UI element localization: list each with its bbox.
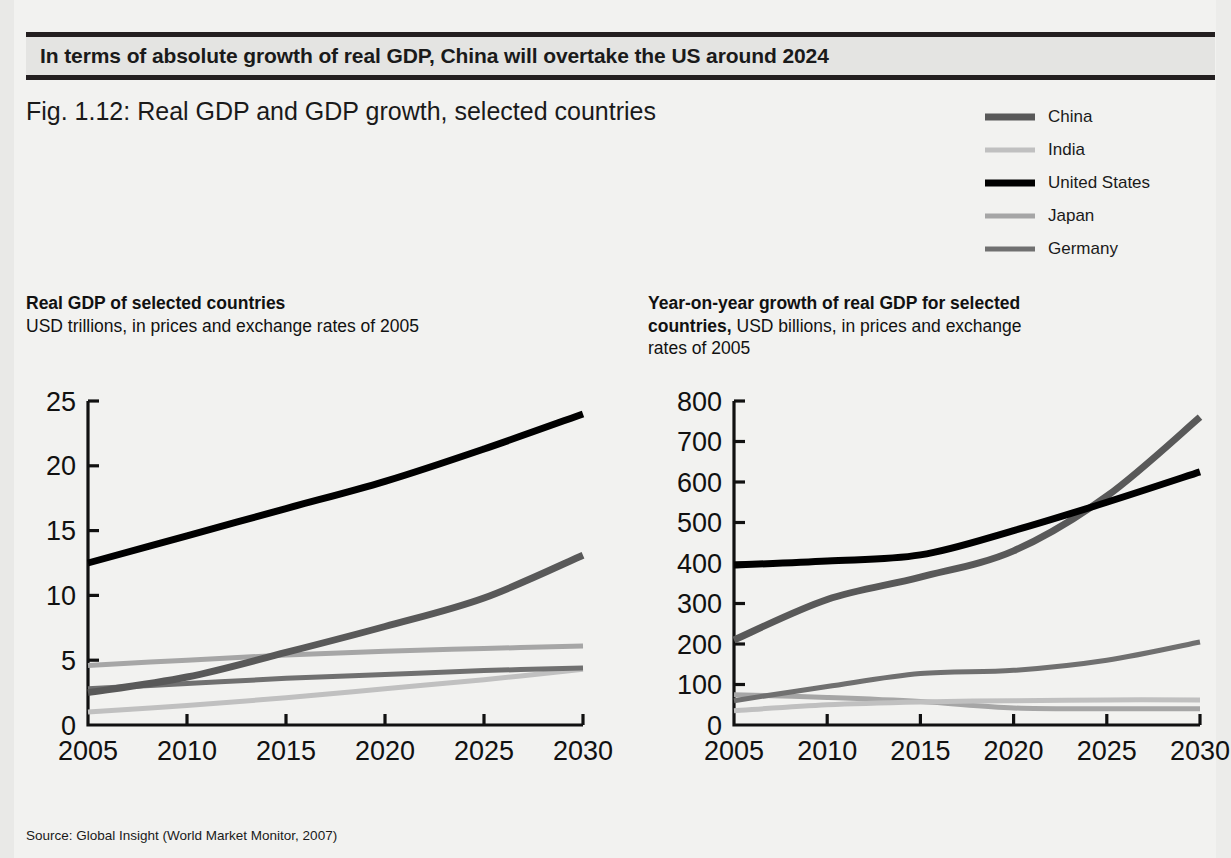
panel-left-heading-rest: USD trillions, in prices and exchange ra…: [26, 316, 419, 336]
x-tick-label: 2010: [157, 736, 217, 766]
x-tick-label: 2020: [355, 736, 415, 766]
x-tick-label: 2005: [58, 736, 118, 766]
right-margin-strip: [1216, 0, 1231, 858]
chart-legend: China India United States Japan Germany: [985, 100, 1215, 265]
legend-label-japan: Japan: [1048, 206, 1094, 226]
series-line-china: [734, 417, 1200, 640]
legend-item-japan: Japan: [985, 199, 1215, 232]
x-tick-label: 2010: [797, 736, 857, 766]
figure-page: In terms of absolute growth of real GDP,…: [0, 0, 1231, 858]
y-tick-label: 300: [677, 589, 722, 619]
x-tick-label: 2015: [256, 736, 316, 766]
panel-real-gdp: Real GDP of selected countries USD trill…: [26, 292, 601, 337]
series-line-united-states: [88, 414, 583, 563]
panel-left-heading: Real GDP of selected countries USD trill…: [26, 292, 426, 337]
legend-label-india: India: [1048, 140, 1085, 160]
series-line-united-states: [734, 472, 1200, 565]
legend-swatch-india: [985, 144, 1035, 156]
panel-left-heading-bold: Real GDP of selected countries: [26, 293, 285, 313]
legend-label-united-states: United States: [1048, 173, 1150, 193]
y-tick-label: 10: [46, 581, 76, 611]
legend-item-india: India: [985, 133, 1215, 166]
y-tick-label: 100: [677, 670, 722, 700]
left-margin-strip: [0, 0, 14, 858]
x-tick-label: 2030: [1170, 736, 1230, 766]
x-tick-label: 2020: [984, 736, 1044, 766]
legend-swatch-united-states: [985, 177, 1035, 189]
y-tick-label: 15: [46, 516, 76, 546]
x-tick-label: 2015: [890, 736, 950, 766]
panel-gdp-growth: Year-on-year growth of real GDP for sele…: [648, 292, 1218, 360]
panel-right-heading: Year-on-year growth of real GDP for sele…: [648, 292, 1048, 360]
y-tick-label: 400: [677, 549, 722, 579]
y-tick-label: 600: [677, 468, 722, 498]
y-tick-label: 5: [61, 646, 76, 676]
y-tick-label: 25: [46, 387, 76, 417]
banner-headline: In terms of absolute growth of real GDP,…: [26, 44, 829, 68]
y-tick-label: 20: [46, 451, 76, 481]
legend-label-china: China: [1048, 107, 1092, 127]
series-line-japan: [88, 646, 583, 665]
chart-left-svg: 0510152025200520102015202020252030: [26, 387, 601, 777]
x-tick-label: 2025: [454, 736, 514, 766]
chart-right-svg: 0100200300400500600700800200520102015202…: [648, 387, 1218, 777]
legend-item-germany: Germany: [985, 232, 1215, 265]
x-tick-label: 2030: [553, 736, 613, 766]
legend-item-united-states: United States: [985, 166, 1215, 199]
legend-swatch-germany: [985, 243, 1035, 255]
legend-item-china: China: [985, 100, 1215, 133]
figure-title: Fig. 1.12: Real GDP and GDP growth, sele…: [26, 97, 656, 126]
chart-left: 0510152025200520102015202020252030: [26, 387, 601, 777]
source-note: Source: Global Insight (World Market Mon…: [26, 828, 337, 843]
y-tick-label: 700: [677, 427, 722, 457]
x-tick-label: 2005: [704, 736, 764, 766]
header-banner: In terms of absolute growth of real GDP,…: [26, 32, 1215, 80]
y-tick-label: 800: [677, 387, 722, 417]
legend-swatch-japan: [985, 210, 1035, 222]
y-tick-label: 500: [677, 508, 722, 538]
x-tick-label: 2025: [1077, 736, 1137, 766]
series-line-germany: [734, 642, 1200, 701]
legend-swatch-china: [985, 111, 1035, 123]
y-tick-label: 200: [677, 630, 722, 660]
chart-right: 0100200300400500600700800200520102015202…: [648, 387, 1218, 777]
legend-label-germany: Germany: [1048, 239, 1118, 259]
